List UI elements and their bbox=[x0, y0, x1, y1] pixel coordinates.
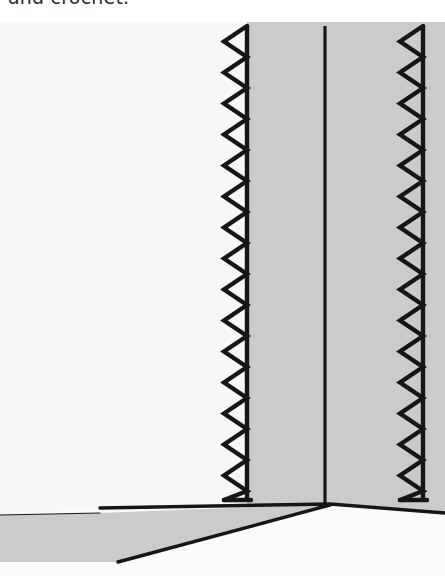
center-fabric-panel bbox=[247, 22, 325, 508]
left-fabric-panel bbox=[0, 22, 247, 515]
figure-plate bbox=[0, 22, 445, 576]
right-fabric-panel bbox=[325, 22, 445, 512]
illustration-page: and crochet. bbox=[0, 0, 445, 576]
caption-strip: and crochet. bbox=[0, 0, 445, 22]
sewing-figure-svg bbox=[0, 22, 445, 576]
caption-text: and crochet. bbox=[8, 0, 129, 8]
